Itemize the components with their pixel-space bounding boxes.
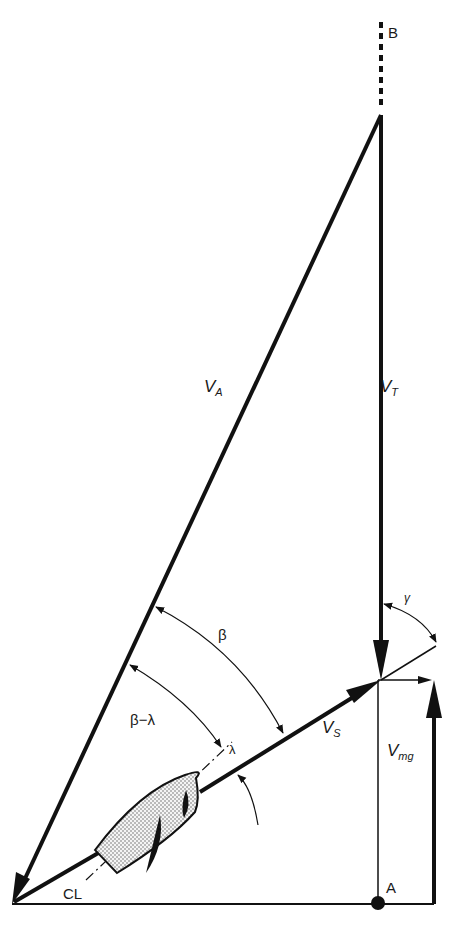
point-b-label: B (388, 24, 398, 41)
vmg-arrowhead (426, 680, 442, 718)
vmg-box-top-arrowhead (418, 676, 432, 684)
point-a-marker (371, 896, 385, 910)
point-a-label: A (386, 879, 396, 896)
beta-minus-lambda-angle-arc (130, 665, 221, 747)
gamma-label: γ (404, 591, 411, 605)
beta-label: β (218, 626, 227, 643)
lambda-label: λ (229, 742, 236, 757)
boat-speed-vector-upper (200, 696, 355, 792)
lambda-angle-arc (238, 775, 258, 825)
heading-extension (381, 646, 436, 680)
true-wind-arrowhead (373, 640, 389, 680)
apparent-wind-vector (22, 115, 381, 885)
vmg-diagram: B VA VT γ β β−λ λ VS Vmg CL A (0, 0, 462, 937)
boat-speed-label: VS (322, 718, 341, 739)
cl-label: CL (63, 885, 82, 902)
beta-minus-lambda-label: β−λ (130, 711, 155, 728)
vmg-label: Vmg (387, 741, 415, 762)
apparent-wind-label: VA (204, 377, 223, 398)
boat-hull (95, 772, 199, 873)
true-wind-label: VT (380, 377, 399, 398)
gamma-angle-arc (384, 604, 436, 642)
